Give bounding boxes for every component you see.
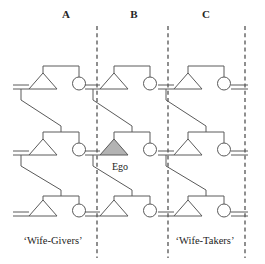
ego-label: Ego	[112, 161, 128, 172]
female-symbol-a3	[73, 204, 86, 217]
descent-line-a1-to-a2	[21, 89, 61, 132]
kinship-diagram: A B C	[0, 0, 265, 264]
female-symbol-a1	[73, 77, 86, 90]
kinship-diagram-canvas: A B C	[0, 0, 265, 264]
male-symbol-a1	[29, 73, 57, 89]
family-unit-a3	[13, 196, 86, 217]
descent-line-a2-to-a3	[21, 155, 61, 196]
male-symbol-c1	[174, 73, 202, 89]
family-unit-b2: Ego	[85, 132, 157, 196]
sibling-bar-c1	[188, 66, 224, 78]
female-symbol-c3	[218, 204, 231, 217]
family-unit-c2	[158, 132, 248, 196]
descent-line-c1-to-c2	[166, 89, 206, 132]
column-label-a: A	[62, 8, 70, 20]
male-symbol-b1	[100, 73, 128, 89]
sibling-bar-c2	[188, 132, 224, 144]
ego-male-symbol	[100, 139, 128, 155]
family-unit-b1	[85, 66, 157, 132]
female-symbol-b3	[144, 204, 157, 217]
male-symbol-a3	[29, 200, 57, 216]
family-unit-c3	[158, 196, 248, 217]
sibling-bar-b2	[114, 132, 150, 144]
column-label-b: B	[130, 8, 138, 20]
family-unit-a2	[13, 132, 86, 196]
male-symbol-b3	[100, 200, 128, 216]
family-unit-c1	[158, 66, 248, 132]
descent-line-c2-to-c3	[166, 155, 206, 196]
sibling-bar-a1	[43, 66, 79, 78]
male-symbol-c3	[174, 200, 202, 216]
wife-givers-label: ‘Wife-Givers’	[23, 235, 82, 246]
family-unit-a1	[13, 66, 86, 132]
sibling-bar-a2	[43, 132, 79, 144]
descent-line-b1-to-b2	[93, 89, 132, 132]
female-symbol-a2	[73, 143, 86, 156]
sibling-bar-b1	[114, 66, 150, 78]
wife-takers-label: ‘Wife-Takers’	[176, 235, 235, 246]
female-symbol-c2	[218, 143, 231, 156]
column-label-c: C	[202, 8, 210, 20]
female-symbol-b2	[144, 143, 157, 156]
female-symbol-c1	[218, 77, 231, 90]
male-symbol-c2	[174, 139, 202, 155]
male-symbol-a2	[29, 139, 57, 155]
female-symbol-b1	[144, 77, 157, 90]
family-unit-b3	[85, 196, 157, 217]
